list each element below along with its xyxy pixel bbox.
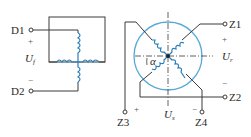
label-z4: Z4 (195, 116, 208, 128)
left-winding-diagram (33, 17, 105, 91)
terminal-z4 (200, 110, 204, 114)
vertical-coil-bottom (78, 62, 80, 82)
rotor-center (166, 54, 170, 58)
voltage-uf: Uf (25, 52, 36, 66)
angle-alpha: α (150, 55, 156, 67)
voltage-ur: Ur (222, 50, 233, 64)
label-z1: Z1 (229, 18, 241, 30)
polarity-z1: + (222, 34, 227, 44)
terminal-z3 (123, 110, 127, 114)
terminal-d2 (29, 89, 33, 93)
terminal-d1 (29, 28, 33, 32)
stator-frame (49, 17, 105, 62)
voltage-us: Us (164, 108, 175, 122)
label-z3: Z3 (117, 116, 130, 128)
vertical-coil-top (78, 33, 80, 62)
label-d2: D2 (11, 85, 24, 97)
polarity-z3: + (134, 104, 139, 114)
polarity-d2: − (28, 75, 33, 85)
polarity-z2: − (222, 78, 227, 88)
polarity-z4: − (192, 104, 197, 114)
terminal-z2 (223, 95, 227, 99)
label-d1: D1 (11, 24, 24, 36)
label-z2: Z2 (229, 91, 241, 103)
resolver-diagram: D1 + Uf − D2 α Z1 + Ur − Z2 + Z3 Us − Z4 (0, 0, 251, 137)
polarity-d1: + (28, 36, 33, 46)
rotor-coils (152, 40, 185, 78)
rotor-wires (125, 22, 223, 110)
left-coils (57, 33, 99, 82)
terminal-z1 (223, 22, 227, 26)
